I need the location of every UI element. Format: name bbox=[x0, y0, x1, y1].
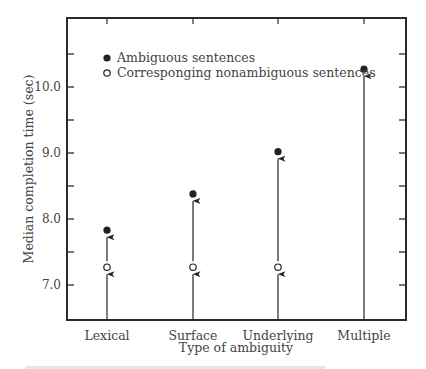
data-series bbox=[103, 66, 367, 314]
ambiguous-point bbox=[103, 227, 110, 234]
legend-open-label: Corresponging nonambiguous sentences bbox=[117, 65, 376, 80]
ambiguous-point bbox=[189, 190, 196, 197]
y-tick-label: 9.0 bbox=[42, 146, 61, 160]
x-category-label: Multiple bbox=[337, 328, 390, 343]
x-category-label: Lexical bbox=[84, 328, 129, 343]
y-tick-label: 7.0 bbox=[42, 278, 61, 292]
legend-open-marker-icon bbox=[104, 70, 110, 76]
legend-filled-label: Ambiguous sentences bbox=[116, 50, 255, 65]
chart-canvas: 7.08.09.010.0 LexicalSurfaceUnderlyingMu… bbox=[0, 0, 426, 369]
y-tick-label: 8.0 bbox=[42, 212, 61, 226]
y-tick-label: 10.0 bbox=[34, 80, 61, 94]
nonambiguous-point bbox=[275, 264, 281, 270]
y-axis-title: Median completion time (sec) bbox=[21, 75, 36, 264]
nonambiguous-point bbox=[190, 264, 196, 270]
y-axis: 7.08.09.010.0 bbox=[34, 54, 406, 292]
nonambiguous-point bbox=[104, 264, 110, 270]
legend-filled-marker-icon bbox=[103, 54, 110, 61]
legend: Ambiguous sentences Corresponging nonamb… bbox=[103, 50, 375, 80]
ambiguous-point bbox=[274, 148, 281, 155]
x-axis-title: Type of ambiguity bbox=[179, 340, 294, 355]
